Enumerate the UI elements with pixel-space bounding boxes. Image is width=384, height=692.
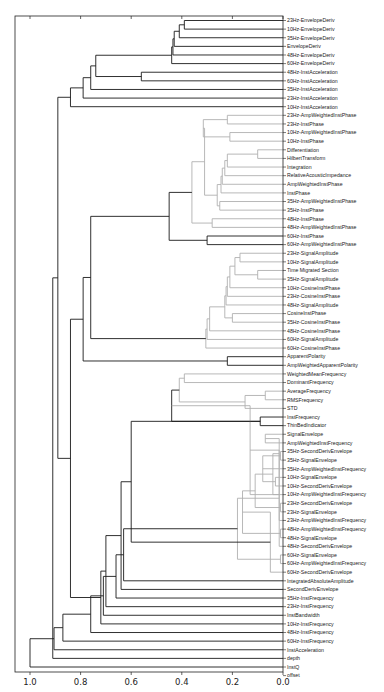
dendrogram-links	[30, 21, 283, 668]
leaf-label: 35Hz-CosineInstPhase	[287, 319, 340, 325]
leaf-label: CosineInstPhase	[287, 310, 326, 316]
leaf-label: InstPhase	[287, 190, 310, 196]
leaf-label: SecondDerivEnvelope	[287, 586, 338, 592]
leaf-label: WeightedMeanFrequency	[287, 371, 347, 377]
leaf-label: 23Hz-EnvelopeDeriv	[287, 17, 335, 23]
dendrogram-link	[141, 72, 283, 81]
dendrogram-link	[260, 417, 283, 426]
leaf-label: Time Migrated Section	[287, 267, 339, 273]
leaf-label: 10Hz-AmpWeightedInstPhase	[287, 129, 357, 135]
dendrogram-link	[220, 202, 283, 211]
leaf-label: 10Hz-CosineInstPhase	[287, 285, 340, 291]
leaf-label: 10Hz-InstAcceleration	[287, 104, 338, 110]
leaf-label: 35Hz-AmpWeightedInstFrequency	[287, 466, 367, 472]
leaf-label: Differentiation	[287, 147, 319, 153]
dendrogram-link	[227, 357, 283, 366]
dendrogram-link	[63, 614, 283, 641]
dendrogram-link	[174, 31, 283, 46]
leaf-label: 23Hz-AmpWeightedInstPhase	[287, 112, 357, 118]
leaf-label: 48Hz-SignalEnvelope	[287, 535, 337, 541]
leaf-label: 60Hz-SignalAmplitude	[287, 336, 338, 342]
leaf-label: 23Hz-InstFrequency	[287, 603, 334, 609]
dendrogram-link	[106, 536, 283, 607]
leaf-label: 60Hz-SecondDerivEnvelope	[287, 569, 352, 575]
dendrogram-link	[58, 97, 71, 458]
dendrogram-link	[131, 421, 270, 542]
leaf-label: 48Hz-InstAcceleration	[287, 69, 338, 75]
dendrogram-link	[54, 628, 283, 650]
dendrogram-link	[116, 555, 283, 598]
dendrogram-link	[91, 596, 283, 633]
leaf-label: InstQ	[287, 664, 299, 670]
leaf-label: 10Hz-InstFrequency	[287, 621, 334, 627]
dendrogram-link	[227, 154, 283, 167]
leaf-label: IntegratedAbsoluteAmplitude	[287, 578, 354, 584]
leaf-label: 10Hz-EnvelopeDeriv	[287, 26, 335, 32]
x-tick-label: 1.0	[23, 677, 37, 687]
leaf-label: 23Hz-InstAcceleration	[287, 95, 338, 101]
leaf-label: 10Hz-SignalAmplitude	[287, 259, 338, 265]
leaf-label: 48Hz-AmpWeightedInstPhase	[287, 224, 357, 230]
dendrogram-link	[70, 88, 283, 107]
dendrogram-link	[265, 391, 283, 400]
dendrogram-link	[103, 576, 283, 615]
leaf-label: 23Hz-CosineInstPhase	[287, 293, 340, 299]
dendrogram-link	[226, 287, 283, 305]
leaf-label: RelativeAcousticImpedance	[287, 172, 351, 178]
leaf-label: EnvelopeDeriv	[287, 43, 321, 49]
dendrogram-link	[258, 150, 283, 159]
plot-frame	[15, 16, 283, 672]
dendrogram-link	[91, 216, 206, 338]
dendrogram-link	[210, 307, 283, 331]
leaf-label: 60Hz-InstFrequency	[287, 638, 334, 644]
dendrogram-link	[203, 128, 217, 195]
leaf-label: 60Hz-AmpWeightedInstFrequency	[287, 560, 367, 566]
leaf-label: 23Hz-InstPhase	[287, 121, 324, 127]
dendrogram-link	[179, 25, 283, 38]
dendrogram-link	[173, 39, 283, 55]
x-tick-label: 0.8	[74, 677, 88, 687]
leaf-labels: 23Hz-EnvelopeDeriv10Hz-EnvelopeDeriv35Hz…	[283, 17, 367, 678]
dendrogram-link	[227, 115, 283, 124]
dendrogram-link	[255, 474, 280, 507]
x-tick-label: 0.0	[276, 677, 290, 687]
x-tick-label: 0.2	[226, 677, 240, 687]
leaf-label: 60Hz-AmpWeightedInstPhase	[287, 241, 357, 247]
dendrogram-link	[235, 258, 258, 275]
leaf-label: depth	[287, 655, 300, 661]
dendrogram-link	[245, 395, 283, 408]
dendrogram-link	[30, 639, 283, 667]
dendrogram-link	[179, 378, 245, 402]
leaf-label: 48Hz-EnvelopeDeriv	[287, 52, 335, 58]
dendrogram-link	[124, 529, 283, 581]
leaf-label: 48Hz-AmpWeightedInstFrequency	[287, 526, 367, 532]
dendrogram-link	[258, 270, 283, 279]
leaf-label: HilbertTransform	[287, 155, 325, 161]
leaf-label: AmpWeightedInstFrequency	[287, 440, 353, 446]
leaf-label: ThinBedIndicator	[287, 422, 326, 428]
leaf-label: 48Hz-InstFrequency	[287, 629, 334, 635]
leaf-label: AmpWeightedInstPhase	[287, 181, 343, 187]
leaf-label: AmpWeightedApparentPolarity	[287, 362, 358, 368]
leaf-label: RMSFrequency	[287, 397, 323, 403]
leaf-label: AverageFrequency	[287, 388, 331, 394]
leaf-label: 10Hz-AmpWeightedInstFrequency	[287, 491, 367, 497]
leaf-label: InstBandwidth	[287, 612, 320, 618]
leaf-label: 35Hz-SignalEnvelope	[287, 457, 337, 463]
leaf-label: 10Hz-SecondDerivEnvelope	[287, 483, 352, 489]
leaf-label: 10Hz-SignalEnvelope	[287, 474, 337, 480]
leaf-label: 48Hz-SecondDerivEnvelope	[287, 543, 352, 549]
leaf-label: ApparentPolarity	[287, 353, 326, 359]
dendrogram-link	[225, 161, 283, 176]
leaf-label: SignalEnvelope	[287, 431, 323, 437]
leaf-label: 23Hz-AmpWeightedInstFrequency	[287, 517, 367, 523]
leaf-label: 23Hz-SignalAmplitude	[287, 250, 338, 256]
dendrogram-link	[184, 374, 283, 383]
leaf-label: 60Hz-InstAcceleration	[287, 78, 338, 84]
leaf-label: 35Hz-InstFrequency	[287, 595, 334, 601]
leaf-label: 35Hz-AmpWeightedInstPhase	[287, 198, 357, 204]
leaf-label: STD	[287, 405, 298, 411]
leaf-label: 35Hz-SecondDerivEnvelope	[287, 448, 352, 454]
leaf-label: InstAcceleration	[287, 647, 324, 653]
leaf-label: 35Hz-EnvelopeDeriv	[287, 35, 335, 41]
